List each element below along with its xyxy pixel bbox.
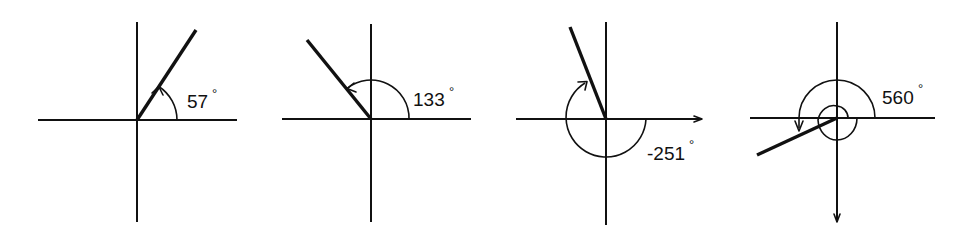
angle-label: 133 <box>413 89 445 110</box>
degree-symbol: ° <box>449 84 454 99</box>
arrowhead-icon <box>578 82 587 91</box>
degree-symbol: ° <box>212 86 217 101</box>
angle-label: 57 <box>187 91 208 112</box>
terminal-ray <box>757 118 837 155</box>
terminal-ray <box>570 27 606 119</box>
panel-angle-133: 133 ° <box>282 24 471 222</box>
panel-angle-57: 57 ° <box>38 22 237 222</box>
degree-symbol: ° <box>689 137 694 152</box>
angle-label: -251 <box>647 143 685 164</box>
degree-symbol: ° <box>918 81 923 96</box>
panel-angle-560: 560 ° <box>750 22 935 222</box>
panel-angle-neg251: -251 ° <box>516 22 702 225</box>
terminal-ray <box>307 40 371 119</box>
angle-label: 560 <box>882 87 914 108</box>
angle-diagrams: 57 ° 133 ° -251 ° 560 ° <box>0 0 966 237</box>
